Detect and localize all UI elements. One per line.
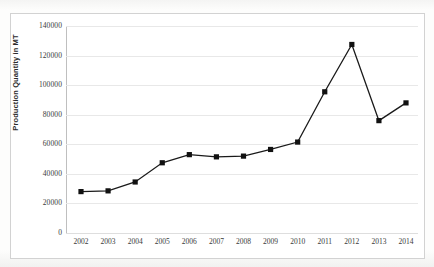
data-point-marker [133,179,138,184]
data-point-marker [105,188,110,193]
data-point-marker [241,154,246,159]
data-point-marker [295,139,300,144]
series-layer [66,26,418,233]
y-axis-tick-label: 120000 [8,52,62,60]
data-point-marker [268,147,273,152]
data-point-marker [214,154,219,159]
y-axis-tick-label: 140000 [8,22,62,30]
data-point-marker [349,42,354,47]
data-point-marker [376,118,381,123]
plot-area [66,26,418,233]
x-axis-tick-labels: 2002200320042005200620072008200920102011… [66,238,418,252]
y-axis-tick-label: 40000 [8,170,62,178]
y-axis-tick-label: 20000 [8,199,62,207]
y-axis-tick-label: 0 [8,229,62,237]
y-axis-tick-label: 100000 [8,81,62,89]
gridline [66,233,418,234]
y-axis-tick-label: 60000 [8,140,62,148]
data-point-marker [187,152,192,157]
x-axis-tick-label: 2014 [389,238,423,246]
chart-screenshot: Production Quantity in MT 02000040000600… [0,0,434,267]
y-axis-tick-label: 80000 [8,111,62,119]
y-axis-tick-labels: 020000400006000080000100000120000140000 [4,26,62,234]
series-line-production-quantity [81,44,406,191]
data-point-marker [403,100,408,105]
data-point-marker [322,89,327,94]
data-point-marker [160,160,165,165]
data-point-marker [78,189,83,194]
